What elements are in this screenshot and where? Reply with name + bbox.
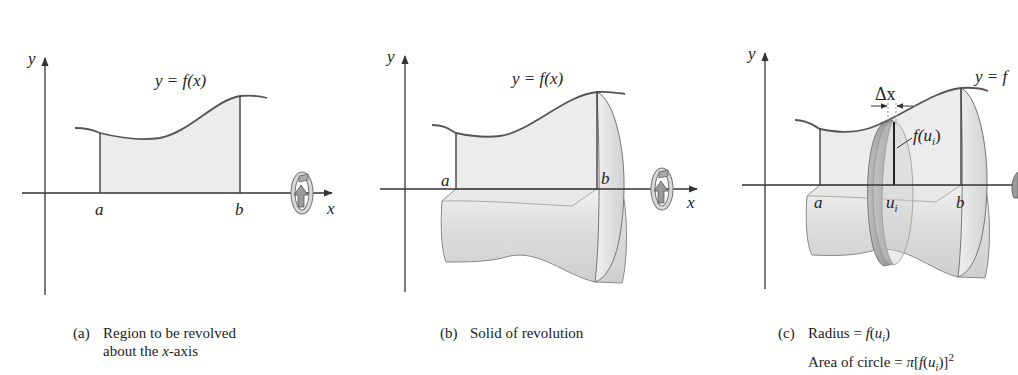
caption-tag: (c) bbox=[778, 324, 808, 342]
panel-c: y Δx y = f f(ui) a ui b bbox=[742, 44, 1018, 289]
region-fill bbox=[100, 96, 240, 193]
panel-a: y x y = f(x) a b bbox=[22, 49, 335, 295]
caption-tag: (a) bbox=[73, 324, 103, 342]
curve-label: y = f bbox=[973, 67, 1010, 86]
caption-line2: Area of circle = π[f(ui)]2 bbox=[778, 348, 954, 375]
bound-label-a: a bbox=[441, 171, 450, 190]
caption-line2: about the x-axis bbox=[73, 342, 236, 360]
bound-label-b: b bbox=[235, 200, 244, 219]
caption-a: (a)Region to be revolved about the x-axi… bbox=[73, 324, 236, 360]
panel-b: y x y = f(x) a b bbox=[380, 47, 697, 292]
dx-label: Δx bbox=[875, 84, 896, 104]
y-axis-label: y bbox=[746, 44, 756, 63]
x-axis-label: x bbox=[686, 193, 695, 212]
caption-b: (b)Solid of revolution bbox=[440, 324, 583, 342]
curve-label: y = f(x) bbox=[510, 69, 563, 88]
y-axis-label: y bbox=[385, 47, 395, 66]
curve-label: y = f(x) bbox=[153, 71, 206, 90]
bound-label-b: b bbox=[956, 193, 965, 212]
bound-label-a: a bbox=[95, 200, 104, 219]
caption-line1: Solid of revolution bbox=[470, 325, 583, 341]
y-axis-label: y bbox=[26, 49, 36, 68]
region-fill bbox=[456, 92, 597, 189]
rotation-icon-partial bbox=[1012, 172, 1018, 198]
caption-tag: (b) bbox=[440, 324, 470, 342]
bound-label-a: a bbox=[814, 193, 823, 212]
x-axis-label: x bbox=[326, 199, 335, 218]
caption-line1: Radius = f(ui) bbox=[808, 325, 890, 341]
radius-label: f(ui) bbox=[913, 126, 941, 147]
bound-label-b: b bbox=[601, 169, 610, 188]
caption-c: (c)Radius = f(ui) Area of circle = π[f(u… bbox=[778, 324, 954, 375]
caption-line1: Region to be revolved bbox=[103, 325, 236, 341]
